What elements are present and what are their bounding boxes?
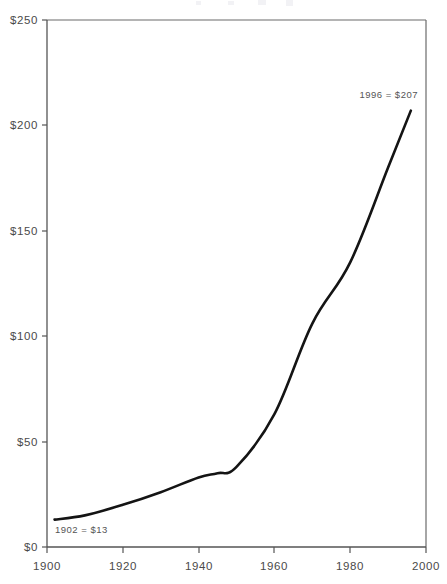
scan-artifact — [196, 0, 293, 6]
x-tick-label-1960: 1960 — [260, 560, 288, 572]
y-tick-label-250: $250 — [10, 14, 38, 26]
end-annotation-label: 1996 = $207 — [359, 89, 418, 100]
x-tick-label-1980: 1980 — [336, 560, 364, 572]
y-tick-label-50: $50 — [17, 436, 38, 448]
line-chart: $0 $50 $100 $150 $200 $250 1900 1920 194… — [0, 0, 447, 584]
chart-page: $0 $50 $100 $150 $200 $250 1900 1920 194… — [0, 0, 447, 584]
x-axis-labels: 1900 1920 1940 1960 1980 2000 — [33, 560, 440, 572]
x-tick-label-2000: 2000 — [412, 560, 440, 572]
x-tick-label-1920: 1920 — [109, 560, 137, 572]
y-tick-label-100: $100 — [10, 330, 38, 342]
start-annotation-label: 1902 = $13 — [55, 524, 108, 535]
y-tick-label-200: $200 — [10, 119, 38, 131]
x-tick-label-1940: 1940 — [185, 560, 213, 572]
x-tick-label-1900: 1900 — [33, 560, 61, 572]
y-axis-ticks — [42, 20, 47, 547]
y-tick-label-0: $0 — [24, 541, 38, 553]
y-axis-labels: $0 $50 $100 $150 $200 $250 — [10, 14, 38, 553]
y-tick-label-150: $150 — [10, 225, 38, 237]
x-axis-ticks — [47, 547, 426, 553]
data-series-line — [55, 111, 411, 520]
